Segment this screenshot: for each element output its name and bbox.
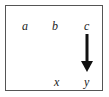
down-arrow-icon	[0, 0, 109, 97]
